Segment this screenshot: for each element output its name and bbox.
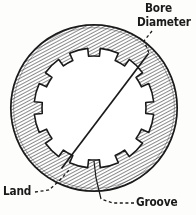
- label-land: Land: [3, 185, 31, 197]
- label-bore: Bore: [145, 2, 172, 14]
- figure-canvas: Bore Diameter Land Groove: [0, 0, 196, 215]
- splined-bore-outline: [34, 48, 153, 167]
- groove-leader: [101, 199, 134, 203]
- label-diameter: Diameter: [137, 16, 191, 28]
- label-groove: Groove: [136, 196, 177, 208]
- splined-bore-diagram: [0, 0, 196, 215]
